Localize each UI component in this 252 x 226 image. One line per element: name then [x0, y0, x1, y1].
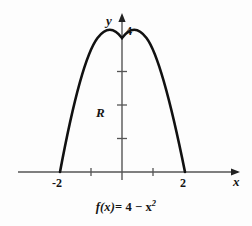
caption-argument: (x)	[100, 200, 115, 214]
caption-expression: = 4 − x	[115, 200, 152, 214]
y-axis-arrowhead	[118, 13, 125, 22]
region-label: R	[96, 106, 105, 119]
function-caption: f(x)= 4 − x2	[0, 198, 252, 215]
y-max-value-label: 4	[126, 25, 132, 37]
caption-exponent: 2	[152, 198, 156, 208]
math-figure: y x 4 R -2 2 f(x)= 4 − x2	[0, 0, 252, 226]
x-axis-label: x	[233, 175, 240, 188]
y-axis-label: y	[106, 14, 112, 27]
root-right-label: 2	[180, 177, 186, 189]
root-left-label: -2	[52, 177, 62, 189]
